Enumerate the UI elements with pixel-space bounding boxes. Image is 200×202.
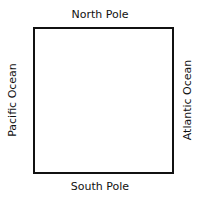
label-west: Pacific Ocean <box>6 63 19 137</box>
label-east: Atlantic Ocean <box>181 60 194 141</box>
label-north: North Pole <box>0 8 200 21</box>
map-square <box>33 27 174 174</box>
label-south: South Pole <box>0 180 200 193</box>
